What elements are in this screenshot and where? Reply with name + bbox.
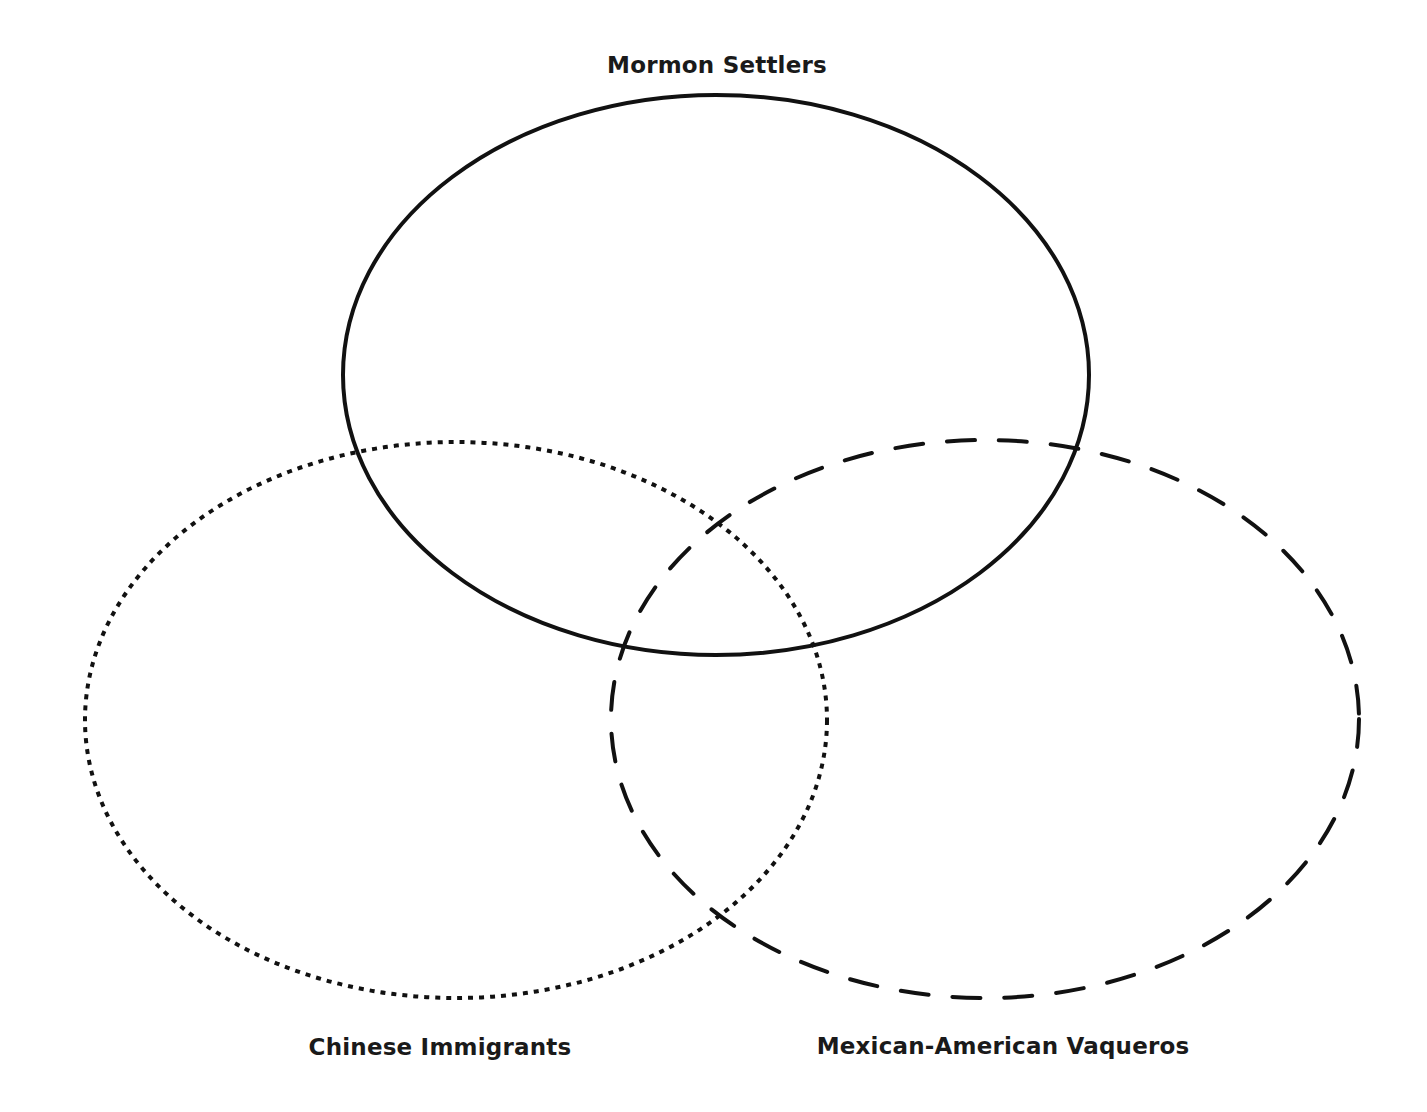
chinese-immigrants-label: Chinese Immigrants [309, 1034, 572, 1060]
mexican-american-vaqueros-label: Mexican-American Vaqueros [817, 1033, 1190, 1059]
venn-diagram: Mormon Settlers Chinese Immigrants Mexic… [0, 0, 1427, 1112]
mormon-settlers-circle [343, 95, 1089, 655]
mormon-settlers-label: Mormon Settlers [607, 52, 827, 78]
venn-svg [0, 0, 1427, 1112]
mexican-american-vaqueros-circle [611, 440, 1359, 998]
